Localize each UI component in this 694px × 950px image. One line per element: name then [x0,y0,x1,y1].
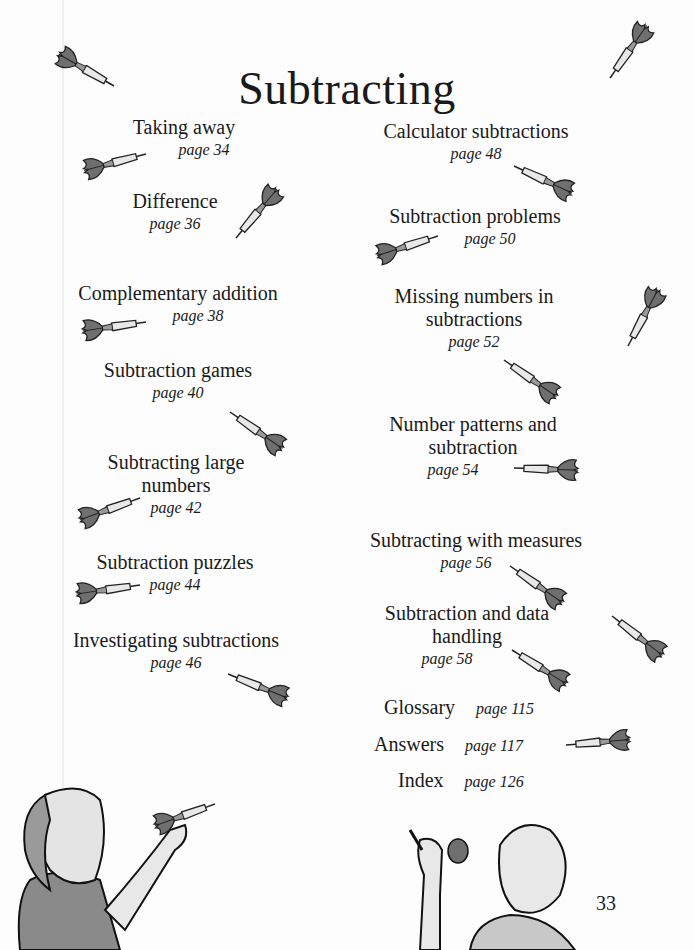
dart-icon [224,404,288,458]
book-page: Subtracting Taking away page 34 Differen… [0,0,694,950]
dart-icon [81,312,147,341]
boy-holding-dart-illustration [400,815,600,950]
dart-icon [602,20,656,84]
dart-icon [228,182,285,244]
dart-icon [565,729,631,755]
dart-icon [53,45,119,95]
dart-icon [606,608,669,664]
dart-icon [514,458,579,481]
girl-throwing-dart-illustration [0,780,240,950]
dart-icon [76,488,143,529]
dart-icon [82,144,149,181]
dart-icon [619,285,667,351]
dart-icon [498,352,562,406]
dart-icon [75,575,141,604]
dart-icon [504,558,568,612]
dart-icon [374,226,441,265]
dart-icon [507,641,572,692]
dart-icon [224,664,291,707]
dart-icon [510,157,577,203]
